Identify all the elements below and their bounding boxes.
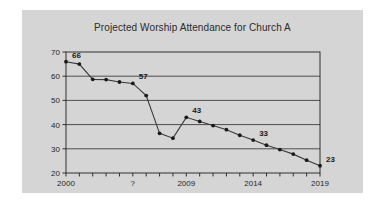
data-point-label-43: 43	[192, 106, 201, 115]
x-tick-label-2000: 2000	[57, 179, 75, 188]
data-point	[64, 60, 68, 64]
data-point	[291, 152, 295, 156]
x-axis-tick-labels: 2000?200920142019	[57, 179, 329, 188]
data-point-labels: 6657433323	[72, 51, 335, 164]
data-point	[118, 80, 122, 84]
data-point	[171, 136, 175, 140]
plot-area: 203040506070 2000?200920142019 665743332…	[22, 10, 363, 193]
x-tick-label-unknown: ?	[131, 179, 136, 188]
y-tick-label-30: 30	[51, 145, 60, 154]
y-tick-label-40: 40	[51, 121, 60, 130]
y-tick-label-60: 60	[51, 72, 60, 81]
data-point	[251, 138, 255, 142]
data-point	[278, 148, 282, 152]
data-point	[198, 120, 202, 124]
y-tick-label-50: 50	[51, 96, 60, 105]
y-tick-label-20: 20	[51, 169, 60, 178]
data-point	[318, 164, 322, 168]
chart-panel: Projected Worship Attendance for Church …	[22, 10, 363, 193]
data-point	[131, 82, 135, 86]
y-axis-tick-labels: 203040506070	[51, 48, 60, 178]
y-tick-label-70: 70	[51, 48, 60, 57]
data-point-label-57: 57	[139, 72, 148, 81]
data-point	[305, 158, 309, 162]
line-chart-svg: 203040506070 2000?200920142019 665743332…	[22, 10, 363, 193]
x-axis-ticks	[66, 173, 320, 177]
data-point	[238, 133, 242, 137]
data-point	[144, 94, 148, 98]
data-point	[77, 62, 81, 66]
x-tick-label-2009: 2009	[177, 179, 195, 188]
data-point	[104, 78, 108, 82]
data-point-label-33: 33	[259, 129, 268, 138]
data-point	[211, 124, 215, 128]
data-point	[158, 131, 162, 135]
x-tick-label-2019: 2019	[311, 179, 329, 188]
y-axis-ticks	[63, 52, 67, 173]
data-point	[184, 115, 188, 119]
data-point	[265, 143, 269, 147]
data-point-label-66: 66	[72, 51, 81, 60]
figure-root: Projected Worship Attendance for Church …	[0, 0, 379, 206]
data-point	[91, 77, 95, 81]
data-point-label-23: 23	[326, 155, 335, 164]
data-point	[225, 128, 229, 132]
x-tick-label-2014: 2014	[244, 179, 262, 188]
